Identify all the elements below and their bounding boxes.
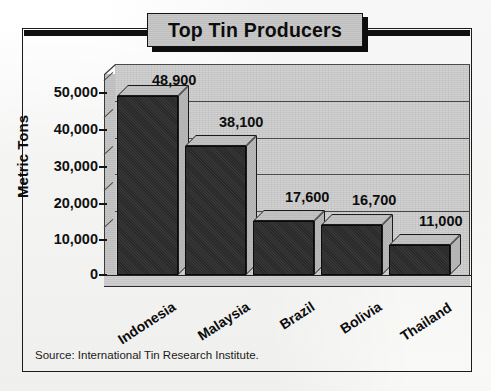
bar-malaysia [185, 135, 246, 275]
y-tick-dash-20000 [99, 203, 107, 205]
y-tick-label: 40,000 [32, 121, 98, 137]
y-tick-dash-10000 [99, 239, 107, 241]
y-tick-20000: 20,000 [32, 195, 98, 213]
bar-brazil [253, 210, 314, 275]
bar-label-thailand: 11,000 [419, 213, 463, 229]
plot-floor [104, 275, 470, 286]
chart-title: Top Tin Producers [168, 19, 342, 42]
bar-front-face [253, 221, 314, 275]
y-tick-label: 10,000 [32, 231, 98, 247]
bar-front-face [185, 146, 246, 275]
y-tick-50000: 50,000 [32, 84, 98, 102]
plot-left-wall [104, 74, 115, 275]
y-tick-40000: 40,000 [32, 121, 98, 139]
chart-figure: Top Tin Producers Metric Tons 50,000 40,… [0, 0, 491, 391]
y-tick-label: 20,000 [32, 195, 98, 211]
y-tick-dash-50000 [99, 92, 107, 94]
bar-label-malaysia: 38,100 [219, 114, 263, 130]
gridline-50000 [115, 64, 470, 65]
y-tick-0: 0 [32, 266, 98, 284]
bar-indonesia [117, 85, 178, 275]
bar-label-brazil: 17,600 [285, 189, 329, 205]
bar-label-indonesia: 48,900 [152, 72, 196, 88]
plot-floor-front-edge [104, 286, 471, 287]
y-tick-label: 30,000 [32, 158, 98, 174]
bar-front-face [117, 96, 178, 275]
bar-front-face [389, 245, 450, 275]
bar-bolivia [321, 214, 382, 275]
chart-title-box: Top Tin Producers [147, 13, 363, 47]
y-tick-10000: 10,000 [32, 231, 98, 249]
bar-thailand [389, 234, 450, 275]
y-tick-label: 50,000 [32, 84, 98, 100]
y-axis-title: Metric Tons [14, 102, 31, 212]
y-tick-dash-0 [99, 274, 107, 276]
bar-front-face [321, 225, 382, 275]
bar-label-bolivia: 16,700 [352, 192, 396, 208]
y-tick-dash-30000 [99, 166, 107, 168]
y-tick-30000: 30,000 [32, 158, 98, 176]
source-note: Source: International Tin Research Insti… [35, 349, 259, 361]
y-tick-label: 0 [32, 266, 98, 282]
y-tick-dash-40000 [99, 129, 107, 131]
